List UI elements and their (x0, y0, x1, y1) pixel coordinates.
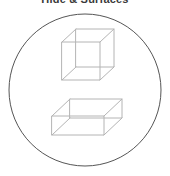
cuboid-back-face (70, 99, 122, 118)
cube-edge-bottom-left (62, 67, 76, 80)
cube-edge-top-right (100, 29, 114, 42)
cuboid-edge-bottom-right (104, 118, 122, 135)
figure-canvas (0, 0, 170, 176)
cube-edge-bottom-right (100, 67, 114, 80)
wireframe-cuboid (52, 99, 122, 135)
screenshot-root: Hide & Surfaces (0, 0, 170, 176)
circle-frame (9, 14, 161, 166)
cuboid-edge-top-left (52, 99, 70, 116)
wireframe-cube (62, 29, 114, 80)
cuboid-edge-bottom-left (52, 118, 70, 135)
cuboid-front-face (52, 116, 104, 135)
cube-edge-top-left (62, 29, 76, 42)
cuboid-edge-top-right (104, 99, 122, 116)
